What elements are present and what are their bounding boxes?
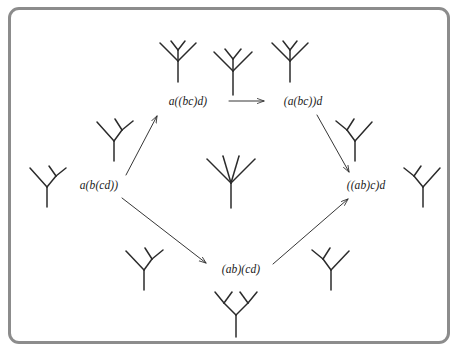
arrow-ab-cd-to-ab-c-d — [273, 199, 348, 264]
arrow-group — [122, 101, 349, 264]
tree-a-b-cd-left — [30, 166, 66, 207]
tree-ab-c-d-right — [404, 166, 440, 207]
diagram-canvas — [0, 0, 464, 357]
node-label-abc-d: (a(bc))d — [284, 95, 322, 107]
node-label-a-bc-d: a((bc)d) — [169, 95, 207, 107]
tree-corolla-center — [207, 156, 255, 208]
tree-ab-c-d-lower — [312, 248, 349, 290]
tree-a-b-cd-upper — [97, 119, 133, 161]
tree-ab-cd-bottom — [215, 292, 257, 337]
tree-a-bc-d-left — [160, 41, 196, 82]
arrow-a-b-cd-to-a-bc-d — [126, 116, 157, 175]
tree-corolla-top — [214, 49, 252, 95]
node-label-ab-c-d: ((ab)c)d — [347, 179, 385, 191]
figure-page: a((bc)d) (a(bc))d a(b(cd)) ((ab)c)d (ab)… — [0, 0, 464, 357]
node-label-a-b-cd: a(b(cd)) — [80, 179, 118, 191]
arrow-abc-d-to-ab-c-d — [317, 115, 349, 172]
tree-a-b-cd-lower — [126, 248, 163, 290]
tree-abc-d-right — [272, 41, 308, 82]
arrow-a-b-cd-to-ab-cd — [122, 198, 206, 263]
node-label-ab-cd: (ab)(cd) — [222, 263, 260, 275]
tree-abc-d-lower — [336, 119, 372, 161]
